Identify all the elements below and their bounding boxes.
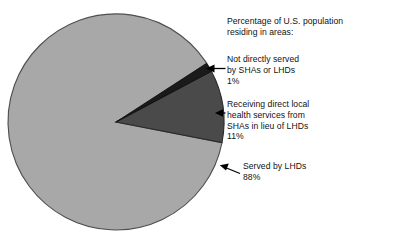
callout-label-sha-in-lieu-of-lhds: Receiving direct local health services f… <box>227 99 309 142</box>
callout-label-3-line-1: Served by LHDs <box>243 161 306 172</box>
callout-value-1: 1% <box>227 76 299 87</box>
chart-heading-line-1: Percentage of U.S. population <box>227 16 343 27</box>
pie-chart-figure: Percentage of U.S. population residing i… <box>0 0 393 241</box>
callout-label-1-line-2: by SHAs or LHDs <box>227 65 299 76</box>
callout-label-served-by-lhds: Served by LHDs 88% <box>243 161 306 183</box>
chart-heading: Percentage of U.S. population residing i… <box>227 16 343 38</box>
callout-label-2-line-1: Receiving direct local <box>227 99 309 110</box>
callout-label-1-line-1: Not directly served <box>227 54 299 65</box>
callout-label-not-directly-served: Not directly served by SHAs or LHDs 1% <box>227 54 299 86</box>
callout-arrow-served-by-lhds <box>220 163 240 173</box>
chart-heading-line-2: residing in areas: <box>227 27 343 38</box>
callout-label-2-line-3: SHAs in lieu of LHDs <box>227 121 309 132</box>
callout-value-2: 11% <box>227 131 309 142</box>
callout-value-3: 88% <box>243 172 306 183</box>
callout-label-2-line-2: health services from <box>227 110 309 121</box>
